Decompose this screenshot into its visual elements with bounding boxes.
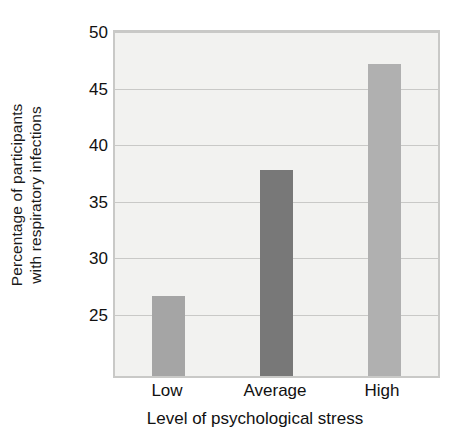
y-tick-label: 40 [62,137,108,154]
x-tick-label-high: High [322,382,442,399]
x-tick-label-average: Average [215,382,335,399]
y-tick-label: 30 [62,250,108,267]
bar-high [368,64,401,376]
y-tick-label: 25 [62,307,108,324]
x-tick-label-low: Low [107,382,227,399]
y-axis-title-line-2: with respiratory infections [27,104,46,287]
y-axis-title-line-1: Percentage of participants [8,104,27,287]
bar-low [152,296,185,376]
y-axis-title: Percentage of participants with respirat… [0,0,54,390]
x-axis-title: Level of psychological stress [60,410,450,427]
bar-chart-figure: Percentage of participants with respirat… [0,0,460,448]
plot-inner [115,32,438,376]
y-tick-label: 50 [62,24,108,41]
y-tick-label: 45 [62,81,108,98]
x-axis-tick-labels: Low Average High [113,382,440,408]
y-axis-tick-labels: 50 45 40 35 30 25 [58,0,108,390]
plot-area [113,30,440,378]
bar-average [260,170,293,376]
y-tick-label: 35 [62,194,108,211]
gridline [115,32,438,33]
